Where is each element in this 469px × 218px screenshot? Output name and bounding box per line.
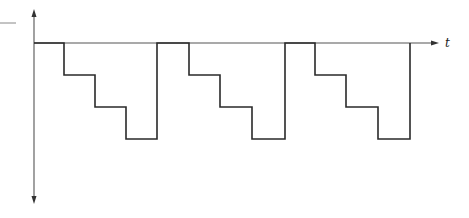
staircase-waveform	[34, 43, 410, 139]
x-axis-label: t	[445, 36, 450, 50]
y-axis-up-arrow-icon	[32, 9, 37, 17]
staircase-waveform-diagram: t	[0, 0, 469, 218]
y-axis-down-arrow-icon	[32, 196, 37, 204]
x-axis-arrow-icon	[431, 41, 439, 46]
